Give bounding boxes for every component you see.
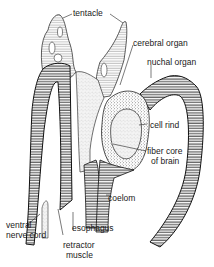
label-coelom: coelom (108, 193, 135, 203)
label-retractor-line2: muscle (66, 250, 93, 260)
label-esophagus: esophagus (72, 223, 114, 233)
label-nuchal-organ: nuchal organ (147, 57, 196, 67)
label-ventral-line1: ventral (6, 220, 32, 230)
label-tentacle: tentacle (73, 8, 103, 18)
central-tissue (76, 72, 104, 172)
body-wall-left (26, 63, 72, 245)
label-fiber-core-line1: fiber core (147, 146, 182, 156)
label-cerebral-organ: cerebral organ (133, 38, 188, 48)
label-cell-rind: cell rind (150, 120, 179, 130)
label-ventral-line2: nerve cord (6, 230, 46, 240)
label-retractor-line1: retractor (63, 240, 95, 250)
label-fiber-core-line2: of brain (151, 156, 179, 166)
